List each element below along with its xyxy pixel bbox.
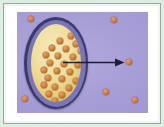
solute-particle [45, 75, 50, 80]
solute-particle [52, 84, 57, 89]
solute-particle [54, 68, 59, 73]
solute-particle [49, 45, 54, 50]
solute-particle [57, 38, 62, 43]
solute-particle [78, 48, 81, 53]
solute-particle [47, 60, 52, 65]
solute-particle [78, 35, 81, 40]
solute-particle [111, 17, 117, 23]
solute-particle [132, 97, 138, 103]
solute-particle [79, 98, 81, 102]
solute-particle [68, 33, 73, 38]
solute-particle [41, 67, 46, 72]
solute-particle [41, 82, 46, 87]
solute-particle [22, 96, 28, 102]
solute-particle [63, 46, 68, 51]
solute-particle [73, 93, 78, 98]
solute-particle [46, 91, 51, 96]
solute-particle [52, 98, 57, 102]
extracellular-space-panel [17, 12, 148, 113]
solute-particle [73, 78, 78, 83]
solute-particle [28, 16, 34, 22]
solute-particle [103, 89, 109, 95]
solute-particle [66, 85, 71, 90]
solute-particle [126, 59, 132, 65]
solute-particle [66, 100, 71, 102]
solute-particle [59, 92, 64, 97]
solute-particle [55, 53, 60, 58]
solute-particle [73, 41, 78, 46]
solute-particle [67, 69, 72, 74]
solute-particle [80, 85, 81, 90]
solute-particle [59, 76, 64, 81]
transport-direction-arrow [63, 58, 125, 67]
solute-particle [43, 52, 48, 57]
figure-root [0, 0, 164, 127]
